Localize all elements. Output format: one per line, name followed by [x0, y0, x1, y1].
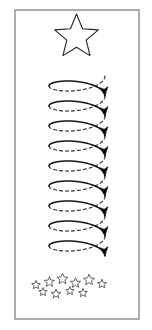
illustration-canvas: [0, 0, 152, 330]
scene-svg: [0, 0, 152, 330]
canvas-background: [0, 0, 152, 330]
